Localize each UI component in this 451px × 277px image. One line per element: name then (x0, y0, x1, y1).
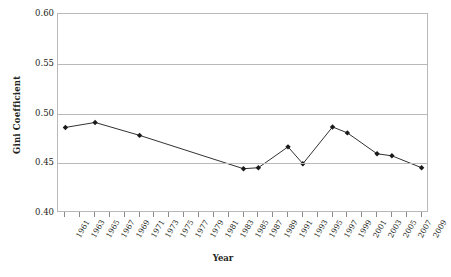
x-tick (109, 212, 110, 217)
y-tick-label: 0.45 (20, 157, 54, 167)
x-tick (287, 212, 288, 217)
data-point-marker (389, 153, 394, 158)
x-tick (124, 212, 125, 217)
data-point-marker (241, 166, 246, 171)
y-tick-label: 0.40 (20, 207, 54, 217)
gridline (58, 163, 427, 164)
x-tick (317, 212, 318, 217)
x-tick (391, 212, 392, 217)
x-tick-label: 2009 (434, 218, 451, 239)
x-tick (168, 212, 169, 217)
y-tick-label: 0.50 (20, 108, 54, 118)
x-tick (213, 212, 214, 217)
x-tick (302, 212, 303, 217)
x-tick (421, 212, 422, 217)
x-tick (153, 212, 154, 217)
x-axis-title: Year (0, 253, 446, 263)
x-axis-tick-labels: 1961196319651967196919711973197519771979… (57, 218, 428, 252)
y-tick-label: 0.60 (20, 8, 54, 18)
data-point-marker (63, 125, 68, 130)
y-tick-label: 0.55 (20, 58, 54, 68)
data-point-marker (419, 165, 424, 170)
x-tick (198, 212, 199, 217)
x-tick (139, 212, 140, 217)
x-tick (79, 212, 80, 217)
data-point-marker (92, 120, 97, 125)
x-tick (361, 212, 362, 217)
x-tick (183, 212, 184, 217)
data-point-marker (256, 165, 261, 170)
x-tick (332, 212, 333, 217)
y-axis-tick-labels: 0.400.450.500.550.60 (16, 0, 54, 277)
data-point-marker (374, 151, 379, 156)
x-tick (272, 212, 273, 217)
data-point-marker (137, 133, 142, 138)
series-polyline (65, 122, 421, 168)
x-tick (346, 212, 347, 217)
x-tick (94, 212, 95, 217)
plot-area (57, 13, 428, 212)
gridline (58, 114, 427, 115)
x-tick (228, 212, 229, 217)
gridline (58, 64, 427, 65)
x-tick (64, 212, 65, 217)
data-point-marker (345, 130, 350, 135)
x-tick (406, 212, 407, 217)
x-tick (243, 212, 244, 217)
x-tick (376, 212, 377, 217)
x-tick (257, 212, 258, 217)
